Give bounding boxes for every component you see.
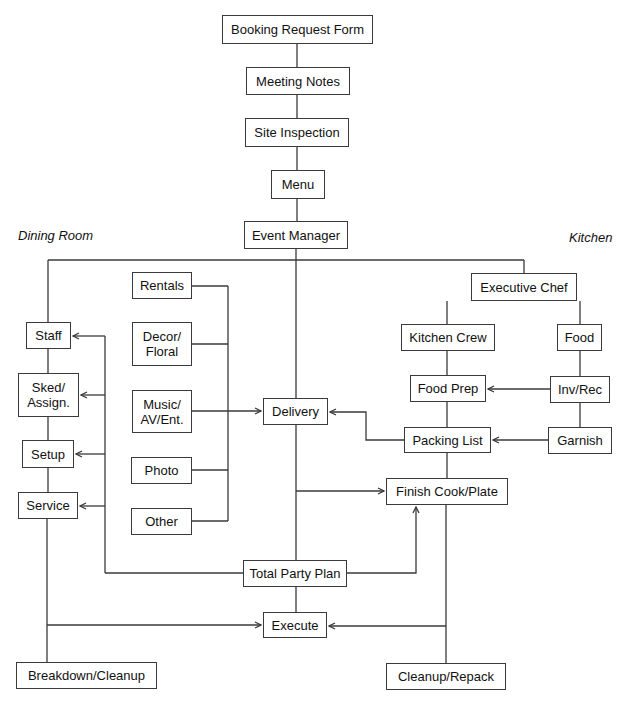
node-booking-request-form: Booking Request Form [222,15,373,44]
node-meeting-notes: Meeting Notes [246,67,350,95]
node-garnish: Garnish [548,427,612,454]
node-setup: Setup [22,440,74,468]
node-finish-cook-plate: Finish Cook/Plate [386,478,508,505]
node-total-party-plan: Total Party Plan [243,560,347,587]
node-food-prep: Food Prep [410,375,486,402]
node-service: Service [18,492,78,519]
node-delivery: Delivery [263,398,328,425]
node-site-inspection: Site Inspection [245,118,349,147]
node-packing-list: Packing List [404,427,491,453]
node-other: Other [131,508,192,535]
node-kitchen-crew: Kitchen Crew [401,324,495,351]
node-event-manager: Event Manager [244,221,348,249]
node-executive-chef: Executive Chef [471,273,577,301]
node-inv-rec: Inv/Rec [550,376,610,403]
node-music-av-ent: Music/ AV/Ent. [132,390,192,433]
node-photo: Photo [131,457,192,484]
section-label-kitchen: Kitchen [569,230,612,245]
section-label-dining-room: Dining Room [18,228,93,243]
node-menu: Menu [271,170,325,199]
connector-lines [0,0,630,701]
node-staff: Staff [26,322,71,349]
node-sked-assign: Sked/ Assign. [18,373,79,417]
node-decor-floral: Decor/ Floral [132,322,192,366]
node-breakdown-cleanup: Breakdown/Cleanup [16,662,157,689]
node-rentals: Rentals [132,272,192,299]
node-cleanup-repack: Cleanup/Repack [386,663,506,690]
node-execute: Execute [263,612,327,638]
node-food: Food [557,324,602,351]
